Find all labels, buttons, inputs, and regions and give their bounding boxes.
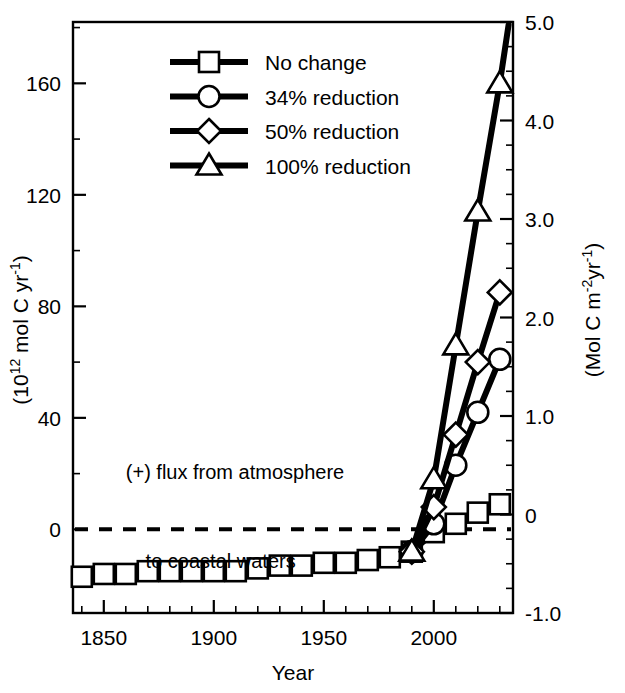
legend-entry-triangle[interactable]: 100% reduction: [170, 154, 411, 178]
chart-figure: 185019001950200004080120160-1.001.02.03.…: [0, 0, 625, 693]
y-tick-label-right: 0: [525, 504, 537, 527]
y-axis-title-right: (Mol C m-2yr-1): [579, 243, 604, 378]
x-axis-title: Year: [272, 661, 314, 684]
legend-label: 100% reduction: [265, 155, 411, 178]
y-tick-label-right: 3.0: [525, 208, 554, 231]
legend-entry-diamond[interactable]: 50% reduction: [170, 119, 399, 143]
flux-line-chart: 185019001950200004080120160-1.001.02.03.…: [0, 0, 625, 693]
marker-square: [199, 52, 219, 72]
marker-circle: [489, 349, 510, 370]
y-tick-label-left: 120: [26, 184, 61, 207]
legend-label: No change: [265, 51, 367, 74]
y-tick-label-right: 4.0: [525, 110, 554, 133]
y-tick-label-right: -1.0: [525, 602, 561, 625]
y-tick-label-right: 1.0: [525, 405, 554, 428]
x-tick-label: 1950: [300, 626, 347, 649]
y-tick-label-left: 80: [38, 295, 61, 318]
y-tick-label-left: 40: [38, 407, 61, 430]
marker-circle: [199, 86, 220, 107]
marker-square: [490, 494, 510, 514]
legend-label: 34% reduction: [265, 86, 399, 109]
y-tick-label-left: 0: [49, 518, 61, 541]
x-tick-label: 1900: [190, 626, 237, 649]
flux-note-line1: (+) flux from atmosphere: [126, 461, 344, 483]
y-tick-label-right: 2.0: [525, 307, 554, 330]
marker-square: [94, 564, 114, 584]
flux-note-line2: to coastal waters: [146, 550, 296, 572]
y-tick-label-right: 5.0: [525, 11, 554, 34]
marker-circle: [467, 402, 488, 423]
marker-square: [116, 564, 136, 584]
marker-square: [468, 503, 488, 523]
marker-square: [380, 547, 400, 567]
marker-square: [72, 567, 92, 587]
x-tick-label: 2000: [410, 626, 457, 649]
x-tick-label: 1850: [80, 626, 127, 649]
marker-square: [446, 514, 466, 534]
y-tick-label-left: 160: [26, 72, 61, 95]
legend-entry-square[interactable]: No change: [170, 51, 367, 74]
legend-label: 50% reduction: [265, 120, 399, 143]
y-axis-title-left: (1012 mol C yr-1): [7, 255, 32, 404]
marker-square: [336, 553, 356, 573]
legend-entry-circle[interactable]: 34% reduction: [170, 86, 399, 109]
marker-square: [358, 550, 378, 570]
marker-square: [314, 553, 334, 573]
